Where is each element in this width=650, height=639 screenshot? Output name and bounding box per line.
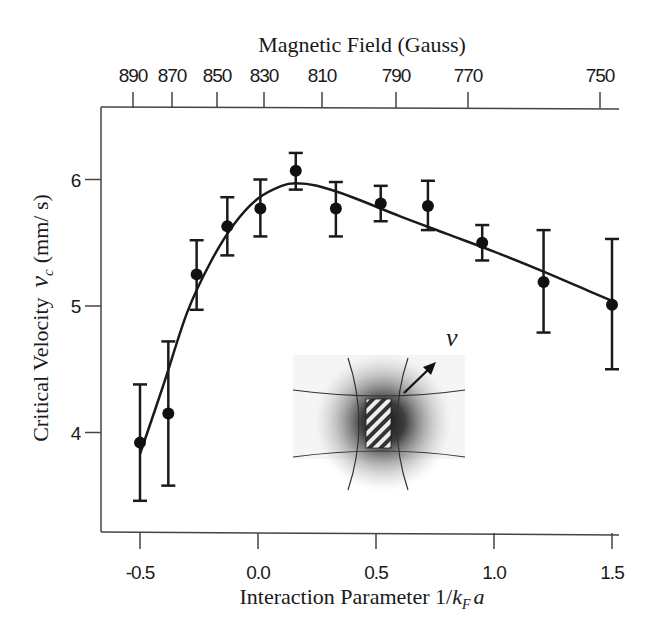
x-axis-line (101, 532, 619, 535)
data-point (162, 408, 174, 420)
top-x-tick-label: 750 (586, 65, 615, 86)
y-axis-label: Critical Velocityvc(mm/ s) (25, 194, 56, 442)
x-axis-label-text: Interaction Parameter 1/ (240, 584, 453, 609)
data-point (606, 299, 618, 311)
velocity-label: v (446, 323, 458, 352)
data-point (476, 237, 488, 249)
x-tick-label: 0.5 (364, 562, 388, 583)
top-x-tick-label: 830 (250, 65, 279, 86)
top-x-ticks: 890870850830810790770750 (119, 65, 615, 108)
data-point (538, 276, 550, 288)
data-point (134, 437, 146, 449)
x-tick-label: 1.5 (600, 562, 624, 583)
top-axis-line (101, 107, 619, 109)
inset-diagram: v (293, 323, 465, 494)
data-point (422, 200, 434, 212)
data-point (375, 198, 387, 210)
y-tick-label: 5 (71, 296, 82, 317)
x-tick-label: 0.0 (246, 562, 270, 583)
top-x-tick-label: 790 (382, 65, 411, 86)
data-point (290, 165, 302, 177)
top-x-tick-label: 810 (308, 65, 337, 86)
y-axis-label-text: Critical Velocity (28, 297, 53, 441)
top-x-tick-label: 770 (454, 65, 483, 86)
y-axis-label-v: v (25, 275, 54, 287)
x-axis-label-a: a (473, 584, 484, 609)
x-axis-label: Interaction Parameter 1/kFa (240, 584, 485, 612)
y-axis-label-unit: (mm/ s) (28, 194, 53, 263)
top-x-tick-label: 870 (158, 65, 187, 86)
y-tick-label: 6 (71, 170, 82, 191)
y-axis-label-sub: c (40, 269, 56, 276)
top-x-tick-label: 890 (119, 65, 148, 86)
data-point (191, 268, 203, 280)
top-x-tick-label: 850 (203, 65, 232, 86)
data-point (254, 203, 266, 215)
data-point (221, 220, 233, 232)
x-tick-label: 1.0 (482, 562, 506, 583)
x-ticks: -0.50.00.51.01.5 (126, 533, 625, 583)
x-axis-label-sub: F (461, 597, 471, 612)
y-ticks: 456 (71, 170, 101, 444)
top-axis-label: Magnetic Field (Gauss) (258, 32, 466, 57)
x-tick-label: -0.5 (126, 562, 155, 583)
y-tick-label: 4 (71, 423, 82, 444)
stirring-laser-hatched-rect (366, 399, 391, 448)
data-point (330, 203, 342, 215)
chart: 456 -0.50.00.51.01.5 8908708508308107907… (0, 0, 650, 639)
